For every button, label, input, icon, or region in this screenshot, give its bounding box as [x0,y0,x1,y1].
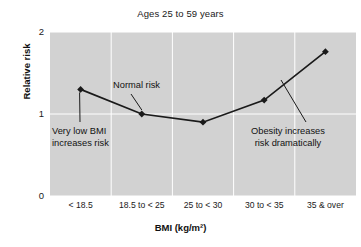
x-tick-label-4: 35 & over [295,200,356,216]
annotation-very-low-bmi-line2: increases risk [52,138,109,150]
x-tick-label-1: 18.5 to < 25 [111,200,172,216]
plot-area [50,32,356,196]
plot-svg [50,32,356,196]
x-tick-label-2: 25 to < 30 [172,200,233,216]
data-point-marker [138,111,145,118]
data-point-marker [200,119,207,126]
chart-title: Ages 25 to 59 years [0,8,361,19]
annotation-leader-line [131,94,142,110]
x-tick-label-0: < 18.5 [50,200,111,216]
annotation-obesity-line1: Obesity increases [251,126,325,138]
x-axis-label: BMI (kg/m²) [0,222,361,233]
data-point-marker [77,86,84,93]
annotation-leader-line [281,80,306,122]
x-tick-label-3: 30 to < 35 [234,200,295,216]
x-axis-tick-labels: < 18.5 18.5 to < 25 25 to < 30 30 to < 3… [50,200,356,216]
annotation-normal-risk-line1: Normal risk [113,80,160,92]
annotation-obesity: Obesity increases risk dramatically [251,126,325,149]
annotation-obesity-line2: risk dramatically [251,138,325,150]
annotation-very-low-bmi-line1: Very low BMI [52,126,109,138]
gridlines [50,32,356,196]
y-tick-label-2: 2 [22,26,44,37]
y-tick-label-1: 1 [22,108,44,119]
chart-figure: Ages 25 to 59 years Relative risk 2 1 0 … [0,0,361,247]
y-tick-label-0: 0 [22,190,44,201]
annotation-very-low-bmi: Very low BMI increases risk [52,126,109,149]
annotation-normal-risk: Normal risk [113,80,160,92]
